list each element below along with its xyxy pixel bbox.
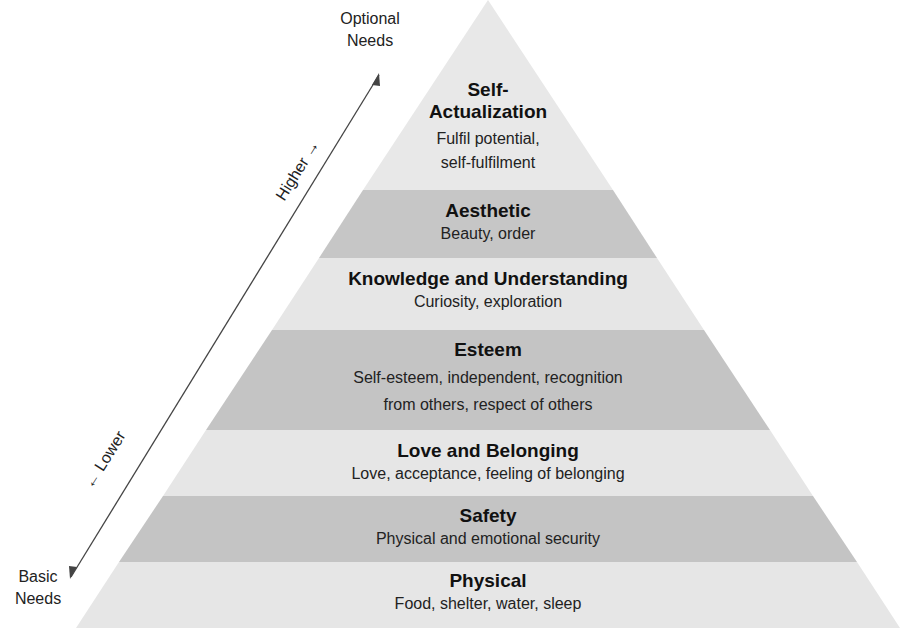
level-aesthetic: Aesthetic Beauty, order — [441, 200, 536, 246]
level-title: Actualization — [429, 101, 547, 123]
level-self-actualization: Self- Actualization Fulfil potential, se… — [429, 79, 547, 175]
level-title: Self- — [429, 79, 547, 101]
level-title: Love and Belonging — [351, 440, 624, 462]
level-title: Safety — [376, 505, 600, 527]
basic-label-line2: Needs — [0, 588, 76, 610]
basic-label-line1: Basic — [0, 566, 76, 588]
level-safety: Safety Physical and emotional security — [376, 505, 600, 551]
level-love-belonging: Love and Belonging Love, acceptance, fee… — [351, 440, 624, 486]
level-desc: from others, respect of others — [353, 391, 623, 418]
optional-needs-label: Optional Needs — [330, 8, 410, 52]
level-knowledge: Knowledge and Understanding Curiosity, e… — [348, 268, 628, 314]
level-desc: Fulfil potential, — [429, 127, 547, 151]
level-desc: Love, acceptance, feeling of belonging — [351, 462, 624, 486]
level-desc: Food, shelter, water, sleep — [395, 592, 582, 616]
basic-needs-label: Basic Needs — [0, 566, 76, 610]
level-desc: Physical and emotional security — [376, 527, 600, 551]
level-title: Esteem — [353, 339, 623, 361]
level-esteem: Esteem Self-esteem, independent, recogni… — [353, 339, 623, 418]
level-desc: self-fulfilment — [429, 151, 547, 175]
optional-label-line2: Needs — [330, 30, 410, 52]
level-title: Knowledge and Understanding — [348, 268, 628, 290]
level-desc: Curiosity, exploration — [348, 290, 628, 314]
optional-label-line1: Optional — [330, 8, 410, 30]
level-physical: Physical Food, shelter, water, sleep — [395, 570, 582, 616]
level-desc: Beauty, order — [441, 222, 536, 246]
level-desc: Self-esteem, independent, recognition — [353, 364, 623, 391]
level-title: Aesthetic — [441, 200, 536, 222]
level-title: Physical — [395, 570, 582, 592]
